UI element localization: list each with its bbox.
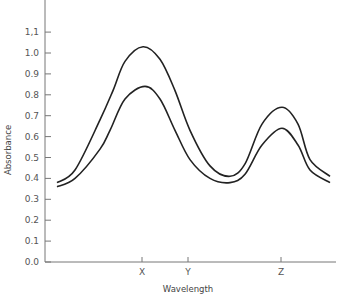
y-tick-label: 0.8 [25, 90, 40, 100]
y-tick-label: 0.6 [25, 132, 40, 142]
upper-absorbance-curve [57, 47, 330, 183]
y-tick-label: 1,1 [25, 27, 39, 37]
y-tick-label: 0.3 [25, 194, 39, 204]
y-tick-label: 1.0 [25, 48, 40, 58]
y-tick-label: 0.1 [25, 236, 39, 246]
x-axis-title: Wavelength [163, 284, 213, 294]
y-axis-title: Absorbance [3, 125, 13, 175]
y-tick-label: 0.0 [25, 257, 40, 267]
y-tick-label: 0.4 [25, 173, 40, 183]
x-tick-label: Y [184, 267, 191, 277]
y-tick-label: 0.2 [25, 215, 39, 225]
x-tick-label: X [139, 267, 145, 277]
y-axis: 0.00.10.20.30.40.50.60.70.80.91.01,1 [25, 0, 51, 267]
y-tick-label: 0.9 [25, 69, 40, 79]
x-tick-label: Z [278, 267, 284, 277]
series-group [57, 47, 330, 187]
absorbance-chart: 0.00.10.20.30.40.50.60.70.80.91.01,1 XYZ… [0, 0, 340, 305]
y-tick-label: 0.7 [25, 111, 39, 121]
y-tick-label: 0.5 [25, 153, 39, 163]
x-axis: XYZ [45, 257, 336, 277]
